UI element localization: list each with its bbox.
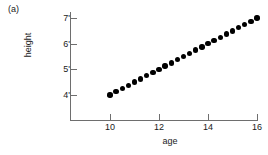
data-point [211, 38, 216, 43]
data-point [248, 19, 253, 24]
data-point [236, 25, 241, 30]
data-point [138, 76, 143, 81]
data-point [254, 15, 259, 20]
data-point [175, 57, 180, 62]
data-point [162, 63, 167, 68]
data-point [187, 51, 192, 56]
data-point [156, 67, 161, 72]
data-point [230, 28, 235, 33]
data-point [199, 44, 204, 49]
data-point [144, 73, 149, 78]
plot-area [0, 0, 268, 155]
data-point [113, 89, 118, 94]
data-point [181, 54, 186, 59]
data-point [120, 86, 125, 91]
data-point [224, 31, 229, 36]
data-point [150, 70, 155, 75]
data-point [107, 92, 112, 97]
data-point [132, 79, 137, 84]
figure-panel-a: (a) height age 4'5'6'7' 10121416 [0, 0, 268, 155]
data-point [218, 35, 223, 40]
data-point [169, 60, 174, 65]
data-point [242, 22, 247, 27]
data-point [126, 83, 131, 88]
data-point [193, 47, 198, 52]
data-point [205, 41, 210, 46]
